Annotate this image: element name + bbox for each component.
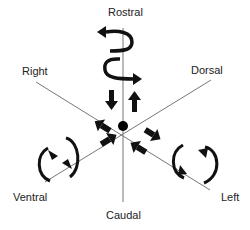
left-rotation-head-2 (178, 165, 187, 175)
label-caudal: Caudal (106, 209, 141, 221)
ventral-rotation-arrow-icon (39, 138, 78, 181)
label-left: Left (221, 191, 239, 203)
ventral-rotation-head-2 (62, 159, 72, 169)
left-rotation-arrow-icon (173, 145, 217, 183)
origin-dot (118, 121, 128, 131)
down-arrow-icon (105, 90, 118, 110)
rostral-rotation-arrow-icon (105, 31, 134, 79)
rostral-arrowhead-right (133, 73, 142, 85)
left-rotation-head-1 (198, 148, 208, 158)
outward-left-arrow-icon (142, 124, 165, 145)
label-rostral: Rostral (108, 6, 143, 18)
label-ventral: Ventral (13, 191, 47, 203)
rostral-arrowhead-left (97, 26, 106, 38)
label-right: Right (22, 65, 48, 77)
label-dorsal: Dorsal (191, 64, 223, 76)
axes-diagram: Rostral Caudal Right Dorsal Ventral Left (0, 0, 250, 230)
up-arrow-icon (128, 91, 141, 112)
ventral-rotation-head-1 (48, 150, 58, 160)
